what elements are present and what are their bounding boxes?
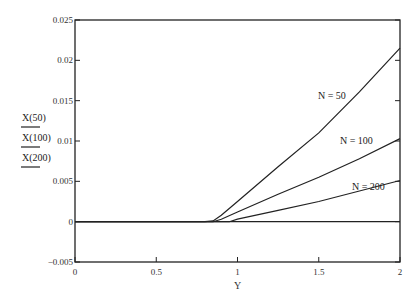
curve-annotation: N = 200 [352,181,385,192]
y-tick-label: −0.005 [48,257,74,267]
x-tick-label: 2 [398,267,403,277]
legend-label: X(100) [22,132,51,144]
legend: X(50)X(100)X(200) [21,112,51,167]
x-axis-label: Y [234,280,241,291]
x-tick-label: 0 [73,267,78,277]
legend-label: X(200) [22,152,51,164]
legend-label: X(50) [22,112,46,124]
y-tick-label: 0.02 [57,55,73,65]
y-tick-label: 0.015 [53,96,74,106]
line-chart: X(50)X(100)X(200) −0.00500.0050.010.0150… [0,0,419,303]
x-tick-label: 1.5 [313,267,325,277]
x-tick-label: 1 [235,267,240,277]
y-tick-label: 0 [69,217,74,227]
y-tick-label: 0.005 [53,176,74,186]
y-tick-label: 0.025 [53,15,74,25]
curve-annotation: N = 50 [318,90,346,101]
curve-annotation: N = 100 [340,135,373,146]
x-axis-ticks: 00.511.52 [73,257,403,277]
x-tick-label: 0.5 [151,267,163,277]
y-tick-label: 0.01 [57,136,73,146]
series-curves: N = 50N = 100N = 200 [75,48,400,222]
